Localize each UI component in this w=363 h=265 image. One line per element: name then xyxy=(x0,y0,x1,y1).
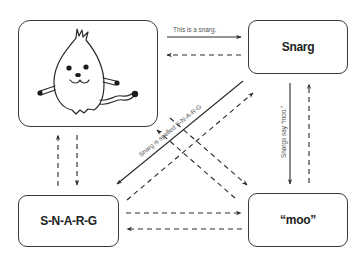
node-word-label: Snarg xyxy=(282,40,315,54)
snarg-learning-diagram: This is a snarg. Snarg is spelled S-N-A-… xyxy=(0,0,363,265)
node-picture xyxy=(18,20,158,127)
edge-picture-to-sound xyxy=(170,118,247,185)
node-word-snarg: Snarg xyxy=(248,20,348,74)
edge-picture-to-word: This is a snarg. xyxy=(167,26,241,37)
node-sound-label: “moo” xyxy=(280,213,316,227)
edge-word-to-sound: Snargs say “moo.” xyxy=(280,83,290,184)
edge-label-this-is-a-snarg: This is a snarg. xyxy=(173,26,217,34)
node-sound: “moo” xyxy=(248,193,348,247)
node-spelling-label: S-N-A-R-G xyxy=(40,214,97,228)
edge-label-snargs-say-moo: Snargs say “moo.” xyxy=(280,106,288,158)
snarg-creature-icon xyxy=(28,26,148,121)
node-spelling: S-N-A-R-G xyxy=(18,195,119,247)
